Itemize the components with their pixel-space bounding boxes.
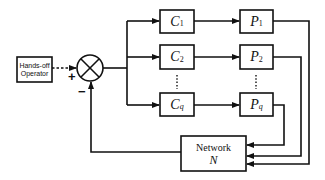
plant-subscript: 1 (259, 19, 263, 28)
minus-sign: − (78, 84, 86, 99)
controller-symbol: C (170, 49, 179, 65)
hands-off-operator-label: Hands-off Operator (17, 57, 52, 82)
plant-symbol: P (250, 97, 259, 113)
network-label: Network (196, 142, 231, 154)
controller-symbol: C (170, 14, 179, 30)
network-block: Network N (181, 136, 246, 171)
block-diagram: Hands-off Operator + − C1 C2 Cq P1 P2 Pq… (0, 0, 325, 180)
plus-sign: + (68, 69, 76, 84)
controller-subscript: q (180, 102, 184, 111)
controller-cq: Cq (160, 93, 194, 116)
network-symbol: N (209, 154, 217, 166)
plant-p1: P1 (240, 10, 273, 33)
plant-symbol: P (250, 14, 259, 30)
plant-p2: P2 (240, 45, 273, 69)
controller-symbol: C (170, 97, 179, 113)
plant-symbol: P (250, 49, 259, 65)
controller-c2: C2 (160, 45, 194, 69)
controller-c1: C1 (160, 10, 194, 33)
plant-subscript: 2 (259, 55, 263, 64)
plant-pq: Pq (240, 93, 273, 116)
plant-subscript: q (259, 102, 263, 111)
controller-subscript: 2 (180, 55, 184, 64)
controller-subscript: 1 (180, 19, 184, 28)
